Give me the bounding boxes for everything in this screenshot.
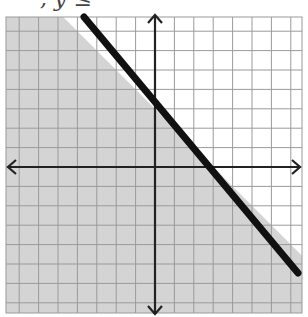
- coordinate-plane: [0, 0, 308, 317]
